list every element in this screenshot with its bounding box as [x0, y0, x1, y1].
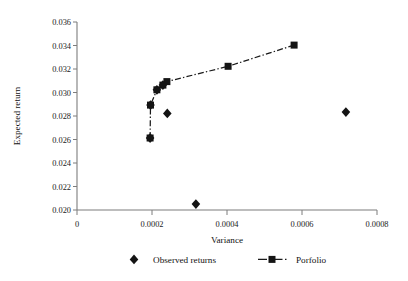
legend-item-observed-returns[interactable]: Observed returns	[130, 255, 217, 266]
diamond-marker	[342, 107, 351, 117]
y-axis-title: Expected return	[12, 86, 22, 145]
diamond-marker	[163, 109, 172, 119]
y-tick-label: 0.022	[52, 183, 71, 192]
x-axis-tick-labels: 0 0.0002 0.0004 0.0006 0.0008	[75, 220, 389, 229]
y-tick-label: 0.034	[52, 42, 72, 51]
y-axis-tick-labels: 0.036 0.034 0.032 0.030 0.028 0.026 0.02…	[52, 18, 72, 215]
y-tick-label: 0.030	[52, 89, 71, 98]
y-tick-label: 0.028	[52, 112, 71, 121]
y-tick-label: 0.032	[52, 65, 71, 74]
diamond-icon	[130, 255, 139, 265]
diamond-marker	[192, 199, 201, 209]
observed-returns-markers	[146, 80, 350, 209]
x-tick-label: 0	[75, 220, 79, 229]
x-axis	[77, 210, 377, 215]
x-tick-label: 0.0006	[290, 220, 313, 229]
y-tick-label: 0.036	[52, 18, 71, 27]
legend-item-porfolio[interactable]: Porfolio	[258, 255, 327, 265]
y-axis	[73, 22, 77, 210]
scatter-plot: 0.036 0.034 0.032 0.030 0.028 0.026 0.02…	[0, 0, 408, 281]
square-marker	[291, 42, 298, 49]
square-marker	[225, 63, 232, 70]
chart-container: 0.036 0.034 0.032 0.030 0.028 0.026 0.02…	[0, 0, 408, 281]
square-icon	[269, 256, 276, 263]
x-tick-label: 0.0002	[140, 220, 163, 229]
x-axis-title: Variance	[211, 235, 243, 245]
x-tick-label: 0.0008	[365, 220, 388, 229]
y-tick-label: 0.020	[52, 206, 71, 215]
porfolio-frontier-line	[150, 45, 294, 138]
x-tick-label: 0.0004	[215, 220, 239, 229]
y-tick-label: 0.024	[52, 159, 72, 168]
chart-legend: Observed returns Porfolio	[130, 255, 327, 266]
y-tick-label: 0.026	[52, 136, 71, 145]
porfolio-markers	[147, 42, 298, 142]
legend-label-observed-returns: Observed returns	[153, 255, 216, 265]
legend-label-porfolio: Porfolio	[296, 255, 327, 265]
